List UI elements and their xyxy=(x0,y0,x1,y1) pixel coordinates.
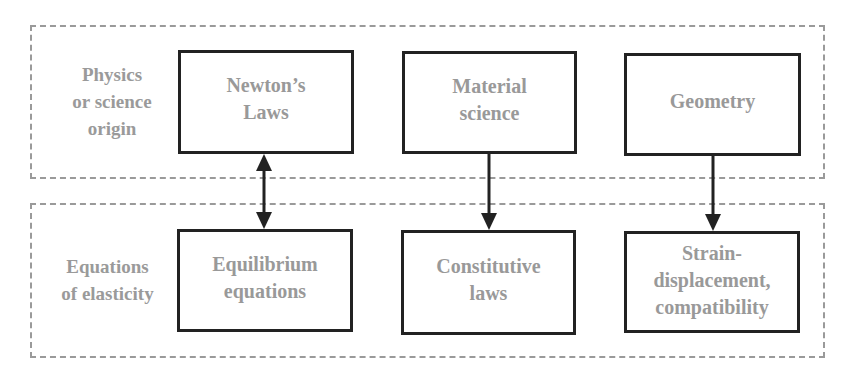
row-label-line: origin xyxy=(88,115,137,142)
row-label-line: Physics xyxy=(82,61,142,88)
box-strain-displacement: Strain- displacement, compatibility xyxy=(624,231,800,333)
box-material-science: Material science xyxy=(402,51,577,154)
box-label: Constitutive laws xyxy=(436,253,540,307)
row-label-line: Equations xyxy=(66,253,148,280)
box-equilibrium-equations: Equilibrium equations xyxy=(177,229,353,332)
box-label: Strain- displacement, compatibility xyxy=(653,240,770,321)
box-label: Newton’s Laws xyxy=(226,72,305,126)
row-label-equations-of-elasticity: Equations of elasticity xyxy=(40,248,175,312)
box-geometry: Geometry xyxy=(624,53,801,156)
box-constitutive-laws: Constitutive laws xyxy=(401,230,576,335)
box-label: Material science xyxy=(452,73,526,127)
box-newtons-laws: Newton’s Laws xyxy=(178,50,354,154)
row-label-physics-origin: Physics or science origin xyxy=(52,56,172,146)
row-label-line: or science xyxy=(72,88,151,115)
box-label: Geometry xyxy=(670,88,756,115)
row-label-line: of elasticity xyxy=(61,280,153,307)
box-label: Equilibrium equations xyxy=(212,251,318,305)
